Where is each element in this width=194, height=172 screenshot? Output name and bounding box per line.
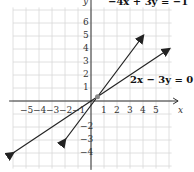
x-tick-label: 5 (153, 106, 159, 115)
y-tick-label: 6 (83, 18, 89, 27)
x-tick-label: −3 (46, 106, 59, 115)
x-tick-label: 3 (127, 106, 133, 115)
y-tick-label: 1 (83, 83, 89, 92)
x-tick-label: 1 (101, 106, 107, 115)
y-tick-label: −3 (80, 135, 93, 144)
coordinate-plane (0, 0, 194, 172)
grid (13, 7, 172, 168)
x-tick-label: −4 (33, 106, 46, 115)
x-tick-label: 4 (140, 106, 146, 115)
y-tick-label: −2 (80, 122, 93, 131)
equation-label-2: 2x − 3y = 0 (130, 74, 193, 85)
x-tick-label: −2 (59, 106, 72, 115)
intersection-point (95, 94, 100, 99)
x-tick-label: 2 (114, 106, 120, 115)
y-tick-label: 2 (83, 70, 89, 79)
x-tick-label: −1 (72, 106, 85, 115)
equation-label-1: −4x + 3y = −1 (108, 0, 188, 7)
y-tick-label: 3 (83, 57, 89, 66)
y-axis-label: y (83, 0, 88, 6)
x-axis-label: x (178, 106, 183, 115)
x-tick-label: −5 (20, 106, 33, 115)
y-tick-label: 4 (83, 44, 89, 53)
y-tick-label: 5 (83, 31, 89, 40)
y-tick-label: −4 (80, 148, 93, 157)
